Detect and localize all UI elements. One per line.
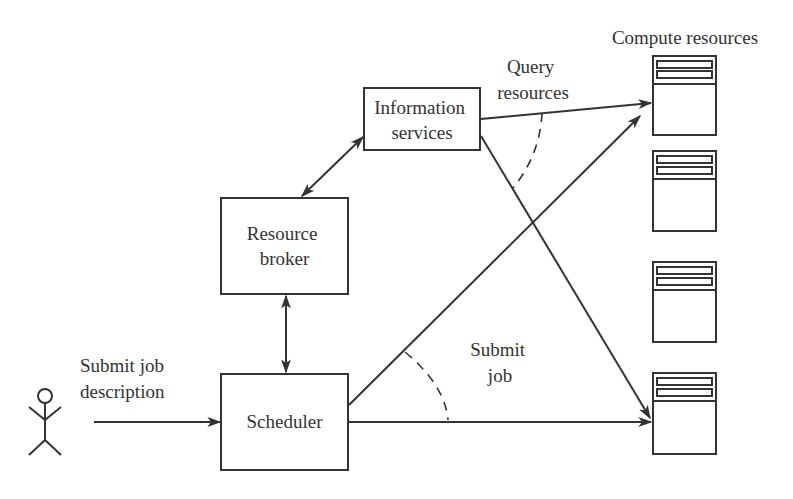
compute-resource-3 [653,262,716,342]
scheduler-label: Scheduler [247,411,324,432]
query-resources-label: Query resources [497,56,569,103]
compute-resource-2 [653,151,716,231]
resource-broker-node: Resource broker [221,198,348,294]
user-actor-icon [29,389,61,455]
submit-angle-arc [405,352,448,420]
compute-resource-4 [653,373,716,454]
broker-information-arrow [302,137,363,196]
query-resources-arrow [481,103,651,119]
submit-job-description-label: Submit job description [80,355,169,402]
compute-resource-1 [653,56,716,135]
submit-job-label: Submit job [470,339,530,386]
compute-resources-label: Compute resources [612,27,758,48]
query-angle-arc [513,113,542,188]
scheduler-node: Scheduler [221,374,348,470]
grid-architecture-diagram: Submit job description Scheduler Resourc… [0,0,793,499]
information-services-node: Information services [364,88,480,150]
